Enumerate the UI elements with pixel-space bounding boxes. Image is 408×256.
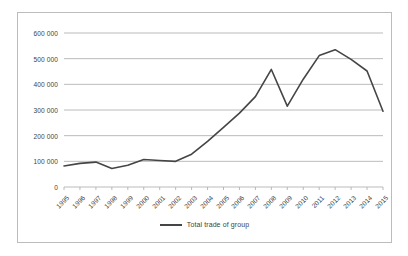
y-axis-tick-label: 200 000 [18,132,58,139]
y-axis-tick-label: 600 000 [18,30,58,37]
chart-container: 0100 000200 000300 000400 000500 000600 … [17,12,392,243]
y-axis-tick-label: 0 [18,184,58,191]
plot-area: 0100 000200 000300 000400 000500 000600 … [18,13,391,242]
data-series-line [64,50,383,169]
chart-legend: Total trade of group [18,221,391,228]
y-axis-tick-label: 400 000 [18,81,58,88]
y-axis-tick-label: 300 000 [18,107,58,114]
legend-line-swatch [160,224,182,226]
y-axis-tick-label: 500 000 [18,55,58,62]
y-axis-tick-label: 100 000 [18,158,58,165]
legend-label: Total trade of group [187,221,249,228]
